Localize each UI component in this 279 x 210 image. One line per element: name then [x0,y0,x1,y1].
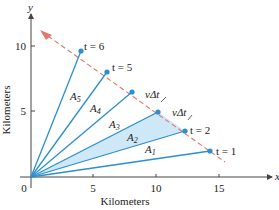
origin-label: 0 [21,182,27,194]
label-t1: t = 1 [216,145,236,157]
area-label-a5: A5 [69,90,81,104]
x-axis-title: Kilometers [101,195,150,207]
trajectory-arrow-icon [40,30,52,40]
label-t5: t = 5 [112,61,133,73]
y-tick-5: 5 [21,105,27,117]
x-tick-5: 5 [90,182,96,194]
area-label-a3: A3 [108,118,120,132]
kepler-area-diagram: 5 10 15 5 10 0 x y Kilometers Kilometers… [0,0,279,210]
y-tick-10: 10 [15,40,27,52]
x-axis-var: x [274,170,279,182]
area-label-a1: A1 [144,143,156,157]
label-t2: t = 2 [190,124,210,136]
label-t6: t = 6 [84,40,105,52]
area-label-a4: A4 [89,102,101,116]
segment-label-2: vΔt [172,106,187,118]
segment-label-1: vΔt [145,88,160,100]
y-axis-title: Kilometers [0,86,12,135]
y-axis-var: y [27,1,33,13]
x-tick-10: 10 [151,182,163,194]
x-tick-15: 15 [214,182,226,194]
